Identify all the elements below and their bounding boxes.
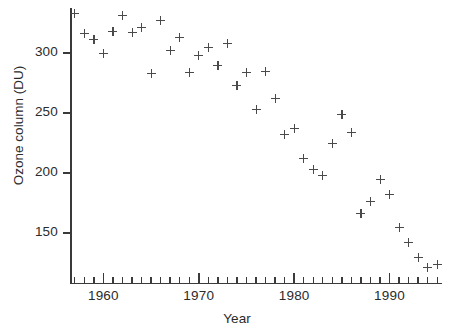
data-point — [290, 124, 299, 133]
x-major-tick-1990 — [389, 273, 391, 283]
data-point — [137, 23, 146, 32]
data-point — [299, 154, 308, 163]
x-minor-tick-1992 — [408, 277, 409, 283]
data-point — [213, 61, 222, 70]
x-minor-tick-1986 — [351, 277, 352, 283]
x-major-tick-1960 — [103, 273, 105, 283]
data-point — [108, 27, 117, 36]
x-tick-label-1990: 1990 — [360, 288, 420, 303]
y-tick-200 — [63, 172, 70, 174]
y-tick-250 — [63, 112, 70, 114]
x-minor-tick-1975 — [246, 277, 247, 283]
x-minor-tick-1977 — [265, 277, 266, 283]
x-minor-tick-1993 — [417, 277, 418, 283]
x-tick-label-1970: 1970 — [169, 288, 229, 303]
ozone-scatter-figure: 150200250300 1960197019801990 Ozone colu… — [0, 0, 472, 336]
data-point — [271, 94, 280, 103]
data-point — [166, 46, 175, 55]
data-point — [89, 35, 98, 44]
data-point — [204, 43, 213, 52]
x-minor-tick-1979 — [284, 277, 285, 283]
data-point — [404, 238, 413, 247]
x-minor-tick-1989 — [379, 277, 380, 283]
data-point — [261, 67, 270, 76]
data-point — [223, 39, 232, 48]
data-point — [366, 197, 375, 206]
x-tick-label-1980: 1980 — [264, 288, 324, 303]
x-minor-tick-1984 — [332, 277, 333, 283]
x-minor-tick-1982 — [313, 277, 314, 283]
x-minor-tick-1974 — [236, 277, 237, 283]
data-point — [385, 190, 394, 199]
x-minor-tick-1961 — [112, 277, 113, 283]
data-point — [376, 175, 385, 184]
x-minor-tick-1968 — [179, 277, 180, 283]
x-minor-tick-1957 — [74, 277, 75, 283]
x-minor-tick-1991 — [398, 277, 399, 283]
data-point — [175, 33, 184, 42]
x-minor-tick-1969 — [189, 277, 190, 283]
x-minor-tick-1978 — [274, 277, 275, 283]
x-minor-tick-1972 — [217, 277, 218, 283]
x-minor-tick-1981 — [303, 277, 304, 283]
x-minor-tick-1983 — [322, 277, 323, 283]
data-point — [128, 28, 137, 37]
data-point — [309, 165, 318, 174]
data-point — [147, 69, 156, 78]
data-point — [252, 105, 261, 114]
data-point — [118, 11, 127, 20]
y-tick-300 — [63, 52, 70, 54]
x-minor-tick-1994 — [427, 277, 428, 283]
x-minor-tick-1965 — [150, 277, 151, 283]
data-point — [328, 139, 337, 148]
x-minor-tick-1967 — [169, 277, 170, 283]
y-axis-spine — [70, 8, 72, 284]
x-minor-tick-1988 — [370, 277, 371, 283]
data-point — [80, 29, 89, 38]
x-minor-tick-1963 — [131, 277, 132, 283]
data-point — [232, 81, 241, 90]
x-tick-label-1960: 1960 — [73, 288, 133, 303]
data-point — [347, 128, 356, 137]
x-minor-tick-1959 — [93, 277, 94, 283]
data-point — [433, 260, 442, 269]
data-point — [414, 253, 423, 262]
x-minor-tick-1958 — [84, 277, 85, 283]
x-minor-tick-1987 — [360, 277, 361, 283]
data-point — [318, 171, 327, 180]
x-axis-title: Year — [207, 311, 267, 326]
x-minor-tick-1966 — [160, 277, 161, 283]
data-point — [99, 49, 108, 58]
y-axis-title: Ozone column (DU) — [11, 46, 26, 206]
data-point — [423, 263, 432, 272]
data-point — [185, 68, 194, 77]
y-tick-150 — [63, 232, 70, 234]
x-minor-tick-1995 — [437, 277, 438, 283]
x-major-tick-1970 — [198, 273, 200, 283]
y-tick-label-150: 150 — [14, 224, 58, 239]
data-point — [156, 16, 165, 25]
data-point — [356, 209, 365, 218]
x-minor-tick-1976 — [255, 277, 256, 283]
x-minor-tick-1971 — [208, 277, 209, 283]
x-minor-tick-1985 — [341, 277, 342, 283]
data-point — [337, 110, 346, 119]
data-point — [395, 223, 404, 232]
data-point — [194, 51, 203, 60]
x-minor-tick-1964 — [141, 277, 142, 283]
data-point — [70, 9, 79, 18]
x-minor-tick-1973 — [227, 277, 228, 283]
x-minor-tick-1962 — [122, 277, 123, 283]
data-point — [242, 68, 251, 77]
data-point — [280, 130, 289, 139]
x-major-tick-1980 — [293, 273, 295, 283]
